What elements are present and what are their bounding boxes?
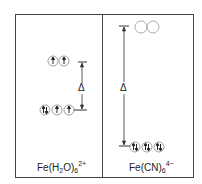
delta-symbol-right: Δ [120,82,127,93]
label-base: Fe(CN) [129,162,162,173]
left-lower-orbitals [40,105,74,115]
delta-symbol-left: Δ [78,82,85,93]
left-upper-orbitals [48,56,69,66]
outer-frame [16,15,194,178]
spin-arrows-icon [42,106,70,114]
label-subscript: 6 [74,167,78,174]
left-complex-label: Fe(H2O)62+ [37,160,86,174]
label-mid: O) [63,162,74,173]
spin-arrows-icon [132,143,162,151]
spin-up-arrow-icon [52,57,66,64]
label-charge: 2+ [78,160,86,167]
label-subscript: 6 [162,167,166,174]
right-lower-orbitals [130,142,164,152]
diagram-canvas [0,0,202,184]
label-charge: 4− [166,160,174,167]
right-complex-label: Fe(CN)64− [129,160,174,174]
right-upper-orbitals [135,21,159,33]
label-base: Fe(H [37,162,59,173]
